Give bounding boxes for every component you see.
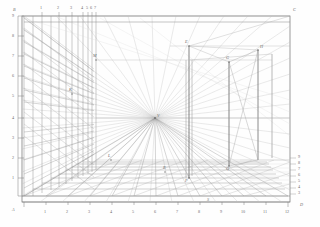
ytick-4: 4 xyxy=(12,116,14,120)
xtick-9: 9 xyxy=(220,210,222,214)
right-tick-4: 4 xyxy=(298,185,300,189)
right-tick-3: 3 xyxy=(298,191,300,195)
ytick-6: 6 xyxy=(12,74,14,78)
ytick-1: 1 xyxy=(12,176,14,180)
right-tick-8: 8 xyxy=(298,161,300,165)
top-tick-5: 5 xyxy=(86,6,88,10)
ytick-2: 2 xyxy=(12,156,14,160)
left-wall-receding-lines xyxy=(24,18,155,196)
bottom-axis-ticks xyxy=(24,202,288,207)
xtick-11: 11 xyxy=(263,210,267,214)
top-axis-ticks xyxy=(42,12,96,16)
label-foot-q: Q xyxy=(226,167,229,171)
xtick-7: 7 xyxy=(176,210,178,214)
label-station-s: S xyxy=(207,198,209,202)
top-tick-4: 4 xyxy=(81,6,83,10)
perspective-plate: B C A D 1 2 3 4 5 6 7 8 9 10 11 12 9 8 7… xyxy=(0,0,320,227)
xtick-4: 4 xyxy=(110,210,112,214)
label-vanishing-point: V xyxy=(157,114,160,118)
right-tick-6: 6 xyxy=(298,173,300,177)
label-apex-e: E xyxy=(185,40,188,44)
xtick-12: 12 xyxy=(285,210,289,214)
label-foot-r: R xyxy=(163,166,166,170)
top-tick-7: 7 xyxy=(94,6,96,10)
right-tick-7: 7 xyxy=(298,167,300,171)
label-mid-l: L xyxy=(108,154,110,158)
top-tick-2: 2 xyxy=(57,6,59,10)
label-base-h: H xyxy=(260,45,263,49)
label-mid-k: K xyxy=(69,88,72,92)
ytick-7: 7 xyxy=(12,54,14,58)
top-tick-3: 3 xyxy=(70,6,72,10)
top-tick-1: 1 xyxy=(40,6,42,10)
ytick-3: 3 xyxy=(12,136,14,140)
perspective-drawing xyxy=(0,0,320,227)
label-corner-d: D xyxy=(300,203,303,207)
right-tick-5: 5 xyxy=(298,179,300,183)
label-foot-p: P xyxy=(185,179,188,183)
pillar-bracing-x xyxy=(229,50,258,166)
label-measure-m: M xyxy=(93,54,97,58)
right-axis-ticks xyxy=(290,158,296,194)
ytick-9: 9 xyxy=(12,14,14,18)
xtick-2: 2 xyxy=(66,210,68,214)
label-corner-b: B xyxy=(13,8,16,12)
xtick-1: 1 xyxy=(44,210,46,214)
xtick-8: 8 xyxy=(198,210,200,214)
xtick-10: 10 xyxy=(241,210,245,214)
right-tick-9: 9 xyxy=(298,155,300,159)
xtick-3: 3 xyxy=(88,210,90,214)
label-corner-a: A xyxy=(12,208,15,212)
left-axis-ticks xyxy=(18,16,24,196)
label-base-g: G xyxy=(226,56,229,60)
ground-line xyxy=(22,196,290,202)
ytick-8: 8 xyxy=(12,34,14,38)
label-corner-c: C xyxy=(293,8,296,12)
xtick-6: 6 xyxy=(154,210,156,214)
top-tick-6: 6 xyxy=(90,6,92,10)
upper-construction-diagonals xyxy=(24,16,290,62)
xtick-5: 5 xyxy=(132,210,134,214)
left-wall-diagonals xyxy=(24,16,98,192)
ytick-5: 5 xyxy=(12,94,14,98)
